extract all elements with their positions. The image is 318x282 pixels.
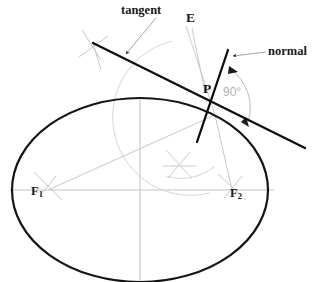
evolute-point-label: E	[186, 11, 195, 25]
primary-geometry-layer	[12, 43, 305, 282]
focus-1-subscript: 1	[39, 189, 43, 199]
normal-label: normal	[268, 45, 307, 58]
leader-layer	[126, 18, 266, 127]
focus-1-letter: F	[31, 184, 39, 198]
tangent-label: tangent	[121, 4, 161, 17]
ellipse-tangent-normal-figure: tangent normal E P 90° F1 F2	[0, 0, 318, 282]
focus-2-subscript: 2	[238, 191, 242, 201]
construction-layer	[10, 26, 274, 281]
normal-leader-line	[233, 52, 266, 56]
right-angle-label: 90°	[223, 86, 241, 98]
point-p-label: P	[203, 82, 211, 96]
focus-2-letter: F	[230, 186, 238, 200]
angle-arrow-normal	[228, 66, 238, 74]
figure-canvas	[0, 0, 318, 282]
tangent-leader-line	[126, 18, 156, 54]
bisector-construction-arc	[113, 41, 210, 195]
focus-2-label: F2	[230, 187, 242, 200]
compass-mark-a2	[79, 36, 108, 57]
secondary-construction-arc	[166, 167, 214, 178]
focus-1-label: F1	[31, 185, 43, 198]
tangent-line	[93, 43, 305, 148]
